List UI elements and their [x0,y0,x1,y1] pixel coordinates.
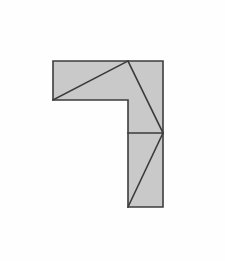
figure-regions [53,61,163,207]
figure-canvas [0,0,225,261]
geometry-figure [0,0,225,261]
